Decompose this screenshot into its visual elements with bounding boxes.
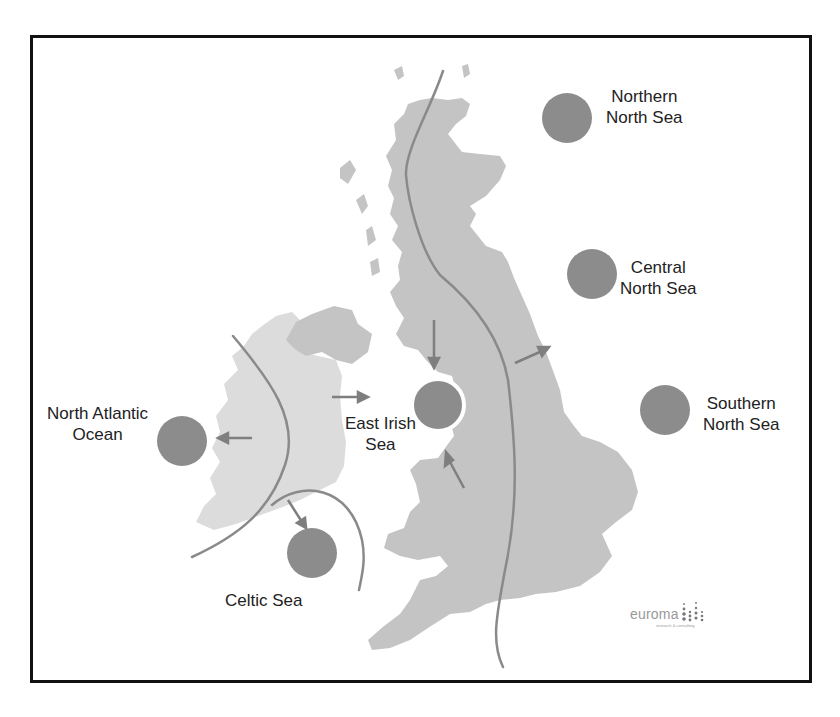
label-line: Northern xyxy=(606,86,683,107)
marker-southern-north-sea xyxy=(640,385,690,435)
label-celtic-sea: Celtic Sea xyxy=(225,590,302,611)
label-central-north-sea: Central North Sea xyxy=(620,257,697,299)
label-line: Sea xyxy=(345,434,416,455)
label-line: Central xyxy=(620,257,697,278)
logo-wordmark: euroma xyxy=(630,606,679,622)
euroma-logo: euroma research & consulting xyxy=(630,600,740,634)
label-line: North Sea xyxy=(703,414,780,435)
britain-mainland xyxy=(368,98,638,650)
label-northern-north-sea: Northern North Sea xyxy=(606,86,683,128)
label-line: Ocean xyxy=(47,424,148,445)
label-line: North Atlantic xyxy=(47,403,148,424)
marker-celtic-sea xyxy=(287,528,337,578)
marker-east-irish-sea xyxy=(412,379,464,431)
logo-dots-icon xyxy=(680,600,710,624)
label-line: East Irish xyxy=(345,413,416,434)
great-britain-landmass xyxy=(340,64,638,650)
label-line: North Sea xyxy=(606,107,683,128)
label-southern-north-sea: Southern North Sea xyxy=(703,393,780,435)
label-east-irish-sea: East Irish Sea xyxy=(345,413,416,455)
marker-northern-north-sea xyxy=(542,93,592,143)
label-line: Celtic Sea xyxy=(225,590,302,611)
label-line: Southern xyxy=(703,393,780,414)
marker-north-atlantic-ocean xyxy=(157,416,207,466)
label-line: North Sea xyxy=(620,278,697,299)
logo-tagline: research & consulting xyxy=(656,623,694,628)
marker-central-north-sea xyxy=(567,249,617,299)
label-north-atlantic-ocean: North Atlantic Ocean xyxy=(47,403,148,445)
